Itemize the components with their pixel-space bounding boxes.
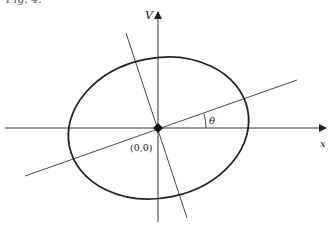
theta-arc (204, 114, 206, 128)
origin-point (153, 123, 163, 133)
x-axis-label: x (320, 138, 326, 149)
ellipse-diagram: V x (0,0) θ (0, 0, 333, 225)
origin-label: (0,0) (130, 142, 153, 153)
v-axis-label: V (145, 9, 154, 22)
theta-label: θ (209, 115, 215, 126)
